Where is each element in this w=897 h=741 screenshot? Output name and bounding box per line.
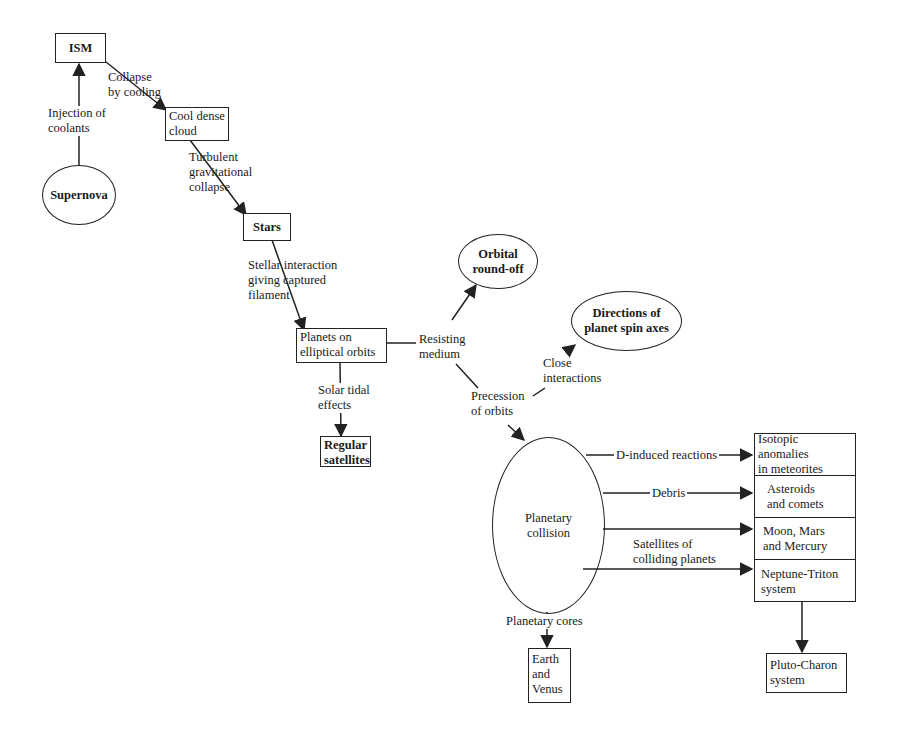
edge-label-precession: Precession of orbits — [471, 389, 524, 419]
label-line: Resisting — [419, 332, 466, 347]
label-line: Venus — [532, 682, 567, 697]
label-line: Neptune-Triton — [761, 567, 852, 582]
edge-close-b — [566, 345, 575, 352]
label-line: Collapse — [108, 70, 161, 85]
edge-label-solar-tidal: Solar tidal effects — [318, 383, 370, 413]
label-line: in meteorites — [758, 462, 852, 477]
edge-precession-a — [456, 364, 478, 388]
label-line: Turbulent — [189, 150, 252, 165]
label-line: coolants — [48, 121, 106, 136]
label-line: Earth — [532, 652, 567, 667]
label-line: Planetary — [525, 511, 572, 526]
label-line: effects — [318, 398, 370, 413]
label-line: Close — [543, 356, 601, 371]
label-line: collision — [525, 526, 572, 541]
label-line: Pluto-Charon — [770, 658, 843, 673]
node-pluto-charon: Pluto-Charon system — [766, 653, 847, 693]
edge-label-d-induced: D-induced reactions — [614, 448, 719, 463]
node-planetary-collision: Planetary collision — [492, 437, 605, 614]
node-cool-dense-cloud: Cool dense cloud — [165, 107, 229, 141]
edge-label-close: Close interactions — [543, 356, 601, 386]
connector-layer — [0, 0, 897, 741]
edge-label-collapse-cooling: Collapse by cooling — [108, 70, 161, 100]
label-line: Satellites of — [633, 537, 716, 552]
node-earth-venus: Earth and Venus — [528, 648, 571, 703]
label-line: Solar tidal — [318, 383, 370, 398]
label-line: Orbital — [472, 247, 523, 262]
edge-label-debris: Debris — [650, 486, 687, 501]
node-stars: Stars — [243, 213, 291, 241]
label-line: giving captured — [248, 273, 337, 288]
label-line: Directions of — [584, 306, 669, 321]
edge-label-cores: Planetary cores — [506, 614, 583, 629]
label-line: Planets on — [300, 330, 383, 345]
label-line: and — [532, 667, 567, 682]
edge-label-turbulent: Turbulent gravitational collapse — [189, 150, 252, 195]
outcome-stack: Isotopic anomalies in meteorites Asteroi… — [754, 433, 856, 602]
label-line: Cool dense — [169, 109, 225, 124]
edge-label-satellites: Satellites of colliding planets — [633, 537, 716, 567]
edge-close — [533, 388, 545, 396]
label-line: Regular — [324, 438, 367, 453]
node-spin-axes: Directions of planet spin axes — [571, 291, 682, 351]
label-line: Precession — [471, 389, 524, 404]
label-line: round-off — [472, 262, 523, 277]
node-planets-elliptical: Planets on elliptical orbits — [296, 328, 387, 363]
label-line: collapse — [189, 180, 252, 195]
label-line: of orbits — [471, 404, 524, 419]
node-isotopic: Isotopic anomalies in meteorites — [755, 434, 855, 476]
node-orbital-roundoff: Orbital round-off — [458, 234, 538, 289]
label-line: planet spin axes — [584, 321, 669, 336]
label-line: medium — [419, 347, 466, 362]
label-line: Asteroids — [767, 482, 852, 497]
label-line: interactions — [543, 371, 601, 386]
node-asteroids: Asteroids and comets — [755, 476, 855, 518]
node-neptune-triton: Neptune-Triton system — [755, 560, 855, 603]
label-line: and Mercury — [763, 539, 852, 554]
edge-roundoff — [452, 285, 476, 320]
label-line: Stellar interaction — [248, 258, 337, 273]
label-line: and comets — [767, 497, 852, 512]
label-line: Injection of — [48, 106, 106, 121]
label-line: system — [761, 582, 852, 597]
edge-label-resisting: Resisting medium — [419, 332, 466, 362]
edge-label-stellar: Stellar interaction giving captured fila… — [248, 258, 337, 303]
node-ism: ISM — [55, 33, 106, 63]
node-moon-mars: Moon, Mars and Mercury — [755, 518, 855, 560]
node-regular-satellites: Regular satellites — [320, 436, 371, 467]
node-supernova-label: Supernova — [50, 188, 108, 203]
label-line: by cooling — [108, 85, 161, 100]
label-line: system — [770, 673, 843, 688]
label-line: satellites — [324, 453, 367, 468]
label-line: Isotopic anomalies — [758, 432, 852, 462]
node-supernova: Supernova — [42, 165, 116, 225]
label-line: gravitational — [189, 165, 252, 180]
label-line: cloud — [169, 124, 225, 139]
edge-precession-b — [508, 425, 524, 440]
edge-label-injection: Injection of coolants — [48, 106, 106, 136]
label-line: Moon, Mars — [763, 524, 852, 539]
label-line: filament — [248, 288, 337, 303]
label-line: colliding planets — [633, 552, 716, 567]
label-line: elliptical orbits — [300, 345, 383, 360]
